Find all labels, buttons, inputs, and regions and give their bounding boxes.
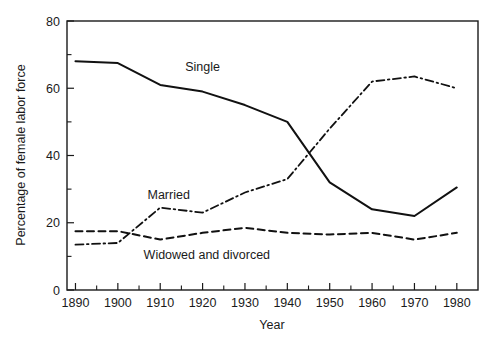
series-line-married bbox=[75, 76, 456, 244]
series-label-widowed-and-divorced: Widowed and divorced bbox=[144, 248, 271, 262]
data-series-group bbox=[75, 61, 456, 244]
x-tick-label: 1980 bbox=[443, 296, 471, 310]
y-axis-tick-labels: 020406080 bbox=[46, 15, 60, 298]
y-tick-label: 0 bbox=[53, 284, 60, 298]
plot-frame bbox=[67, 21, 478, 290]
x-tick-label: 1890 bbox=[62, 296, 90, 310]
series-label-single: Single bbox=[185, 60, 220, 74]
y-tick-label: 40 bbox=[46, 149, 60, 163]
y-tick-label: 20 bbox=[46, 216, 60, 230]
x-tick-label: 1920 bbox=[189, 296, 217, 310]
y-axis-title: Percentage of female labor force bbox=[14, 64, 28, 245]
x-axis-tick-labels: 1890190019101920193019401950196019701980 bbox=[62, 296, 471, 310]
x-axis-ticks bbox=[75, 283, 456, 290]
chart-figure: 020406080 189019001910192019301940195019… bbox=[0, 0, 503, 341]
chart-canvas: 020406080 189019001910192019301940195019… bbox=[0, 0, 503, 341]
x-tick-label: 1900 bbox=[104, 296, 132, 310]
x-tick-label: 1950 bbox=[316, 296, 344, 310]
series-label-married: Married bbox=[148, 188, 190, 202]
y-tick-label: 60 bbox=[46, 82, 60, 96]
series-line-single bbox=[75, 61, 456, 216]
x-tick-label: 1910 bbox=[146, 296, 174, 310]
x-tick-label: 1970 bbox=[401, 296, 429, 310]
x-axis-title: Year bbox=[259, 318, 284, 332]
y-axis-ticks bbox=[67, 21, 74, 290]
x-tick-label: 1940 bbox=[273, 296, 301, 310]
y-tick-label: 80 bbox=[46, 15, 60, 29]
x-tick-label: 1960 bbox=[358, 296, 386, 310]
x-tick-label: 1930 bbox=[231, 296, 259, 310]
plot-frame-rect bbox=[67, 21, 478, 290]
